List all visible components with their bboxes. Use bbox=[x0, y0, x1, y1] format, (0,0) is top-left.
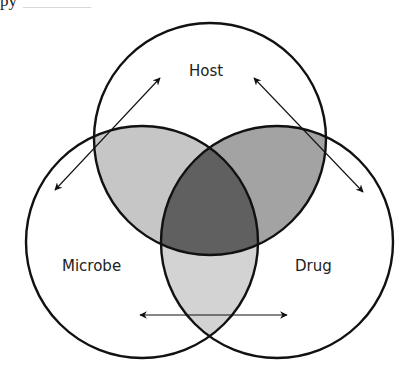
venn-diagram: Host Microbe Drug bbox=[0, 0, 409, 377]
microbe-label: Microbe bbox=[62, 257, 121, 275]
drug-label: Drug bbox=[295, 257, 332, 275]
host-label: Host bbox=[189, 62, 223, 80]
